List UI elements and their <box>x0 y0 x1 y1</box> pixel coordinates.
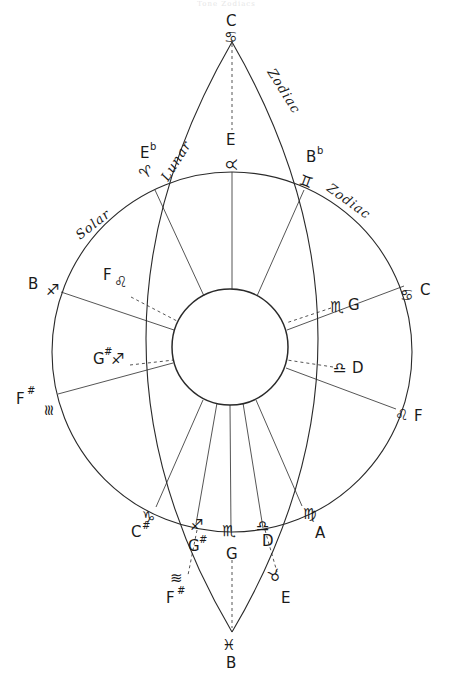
leo-icon: ♌ <box>114 273 127 291</box>
spoke-scorpio-bottom <box>230 405 231 531</box>
flat-sign: b <box>150 141 156 152</box>
sagittarius-icon: ♐ <box>190 516 203 534</box>
spoke-gemini <box>257 190 304 296</box>
note-g: G <box>348 296 360 314</box>
sharp-sign: # <box>27 385 35 396</box>
note-g-sharp: G <box>188 537 200 555</box>
note-f-sharp: F <box>166 589 175 607</box>
label-zodiac-solar: Zodiac <box>323 180 373 222</box>
pisces-icon: ♓ <box>222 636 235 654</box>
spoke-virgo <box>256 400 302 506</box>
lunar-arc-right <box>232 42 318 632</box>
note-d: D <box>262 532 274 550</box>
note-c-sharp: C <box>131 523 141 541</box>
flat-sign: b <box>317 145 323 156</box>
sagittarius-icon: ♐ <box>46 281 59 299</box>
dash-scorpio-inner <box>286 308 331 323</box>
note-e-flat: E <box>140 144 149 162</box>
spoke-sagittarius-bottom <box>196 403 217 524</box>
sharp-sign: # <box>177 585 185 596</box>
taurus-icon: ♉ <box>222 158 240 171</box>
dash-libra-inner <box>287 360 333 367</box>
note-a: A <box>315 524 326 542</box>
sharp-sign: # <box>199 534 207 545</box>
spoke-cancer-right <box>287 286 404 330</box>
scorpio-icon: ♏ <box>330 298 344 316</box>
taurus-icon: ♉ <box>265 565 284 587</box>
inner-circle <box>172 289 288 405</box>
virgo-icon: ♍ <box>303 505 316 523</box>
libra-icon: ♎ <box>333 359 346 377</box>
label-zodiac-lunar: Zodiac <box>264 65 304 117</box>
aries-icon: ♈ <box>136 161 157 183</box>
note-c: C <box>420 281 430 299</box>
note-e: E <box>281 589 290 607</box>
spoke-aries <box>155 190 204 296</box>
note-f: F <box>414 407 423 425</box>
cancer-icon: ♋ <box>224 28 237 46</box>
dash-leo-inner <box>131 297 177 321</box>
note-f-sharp: F <box>16 390 25 408</box>
note-g: G <box>226 545 238 563</box>
note-f: F <box>103 266 112 284</box>
note-b-flat: B <box>306 148 316 166</box>
note-b: B <box>28 275 38 293</box>
note-g-sharp: G <box>93 350 105 368</box>
scorpio-icon: ♏ <box>222 522 236 540</box>
spoke-libra-bottom <box>243 403 263 528</box>
spoke-capricorn <box>156 400 203 507</box>
note-bottom-b: B <box>226 654 236 672</box>
leo-icon: ♌ <box>395 406 408 424</box>
tone-zodiac-diagram: Lunar Zodiac Solar Zodiac C ♋ ♓ B E b ♈ … <box>0 0 453 681</box>
cancer-icon: ♋ <box>400 286 413 304</box>
sharp-sign: # <box>142 520 150 531</box>
aquarius-icon: ≋ <box>40 404 58 417</box>
spoke-sagittarius-left <box>61 292 174 330</box>
gemini-icon: ♊ <box>297 171 316 193</box>
note-e: E <box>226 131 235 149</box>
sagittarius-icon: ♐ <box>111 350 124 368</box>
note-d: D <box>352 359 364 377</box>
